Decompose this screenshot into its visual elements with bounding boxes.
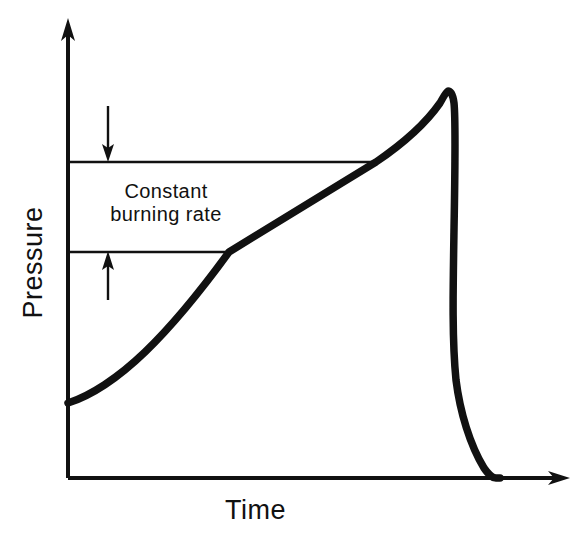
band-down-arrow	[102, 106, 114, 162]
band-up-arrow	[102, 251, 114, 300]
pressure-curve	[68, 91, 500, 478]
annotation-line-1: Constant	[76, 180, 256, 203]
annotation-line-2: burning rate	[76, 203, 256, 226]
x-axis-label: Time	[225, 495, 286, 526]
constant-burning-rate-annotation: Constant burning rate	[76, 180, 256, 226]
plot-canvas	[0, 0, 585, 542]
y-axis	[61, 18, 75, 478]
y-axis-label: Pressure	[18, 183, 49, 343]
pressure-time-figure: Pressure Time Constant burning rate	[0, 0, 585, 542]
